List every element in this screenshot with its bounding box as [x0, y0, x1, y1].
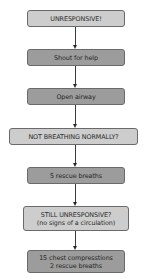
node-label: Open airway — [56, 93, 95, 101]
node-not-breathing-normally: NOT BREATHING NORMALLY? — [9, 128, 138, 145]
node-open-airway: Open airway — [27, 88, 125, 105]
edge-2-3 — [75, 66, 76, 84]
node-label: UNRESPONSIVE! — [50, 15, 101, 23]
edge-3-4 — [75, 105, 76, 124]
node-label: NOT BREATHING NORMALLY? — [28, 133, 118, 141]
node-unresponsive: UNRESPONSIVE! — [27, 10, 125, 27]
node-label: 5 rescue breaths — [50, 172, 102, 180]
node-label: Shout for help — [54, 54, 98, 62]
node-shout-for-help: Shout for help — [27, 49, 125, 66]
node-chest-compressions: 15 chest compresstions 2 rescue breaths — [27, 250, 125, 273]
node-label-line-2: 2 rescue breaths — [50, 262, 102, 270]
node-5-rescue-breaths: 5 rescue breaths — [27, 167, 125, 184]
node-label-line-2: (no signs of a circulation) — [37, 219, 115, 227]
edge-4-5 — [75, 145, 76, 163]
edge-1-2 — [75, 27, 76, 45]
edge-5-6 — [75, 184, 76, 202]
node-label-line-1: STILL UNRESPONSIVE? — [41, 211, 112, 219]
node-label-line-1: 15 chest compresstions — [39, 254, 113, 262]
node-still-unresponsive: STILL UNRESPONSIVE? (no signs of a circu… — [23, 206, 129, 231]
edge-6-7 — [75, 231, 76, 246]
